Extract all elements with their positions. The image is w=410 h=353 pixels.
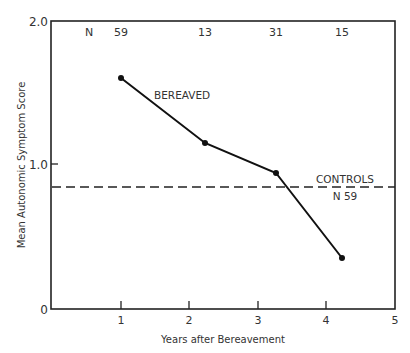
x-ticks: [121, 301, 326, 309]
bereaved-line: [121, 78, 342, 258]
n-value: 59: [114, 26, 128, 39]
x-tick-label: 2: [186, 314, 193, 327]
controls-label: CONTROLS: [316, 173, 374, 185]
y-tick-label: 1.0: [29, 158, 48, 172]
y-tick-label: 0: [40, 303, 48, 317]
n-header: N: [85, 26, 93, 39]
plot-frame: [51, 21, 395, 309]
y-tick-label: 2.0: [29, 15, 48, 29]
controls-n-label: N 59: [333, 190, 358, 202]
x-axis-label: Years after Bereavement: [160, 334, 285, 345]
x-tick-label: 1: [118, 314, 125, 327]
x-tick-label: 4: [323, 314, 330, 327]
x-tick-label: 5: [392, 314, 399, 327]
y-axis-label: Mean Autonomic Symptom Score: [16, 82, 27, 249]
bereaved-label: BEREAVED: [154, 89, 210, 101]
n-value: 15: [335, 26, 349, 39]
n-value: 13: [198, 26, 212, 39]
chart-canvas: 2.0 1.0 0 1 2 3 4 5 Years after Bereavem…: [0, 0, 410, 353]
n-value: 31: [269, 26, 283, 39]
x-tick-label: 3: [255, 314, 262, 327]
